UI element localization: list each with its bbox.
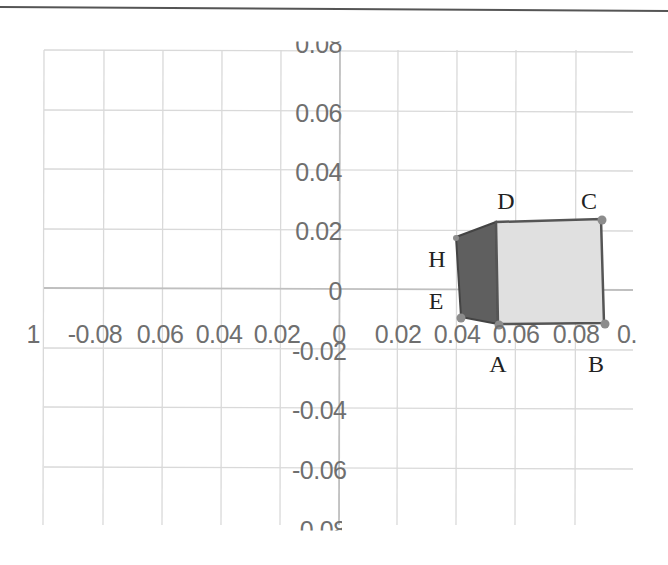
- x-tick-0.1: 0.: [617, 322, 637, 347]
- y-tick-0.02: 0.02: [292, 219, 342, 244]
- x-tick-neg-0.08: -0.08: [68, 322, 122, 347]
- x-tick-0.04: 0.04: [434, 322, 481, 347]
- vertex-label-C: C: [581, 189, 597, 213]
- vertex-label-D: D: [497, 189, 514, 213]
- x-tick-neg-0.02: 0.02: [254, 322, 301, 347]
- vertex-label-E: E: [429, 289, 444, 313]
- y-tick-0: 0: [292, 279, 342, 304]
- y-tick-neg-0.04: -0.04: [292, 398, 342, 423]
- x-tick-0.08: 0.08: [553, 322, 600, 347]
- y-tick-0.06: 0.06: [292, 101, 342, 126]
- y-tick-0.04: 0.04: [292, 160, 342, 185]
- marker-C: [598, 216, 607, 225]
- y-tick-neg-0.06: -0.06: [292, 458, 342, 483]
- x-tick-neg-0.06: 0.06: [137, 322, 184, 347]
- marker-H: [453, 235, 459, 241]
- x-tick-0.06: 0.06: [493, 322, 540, 347]
- x-tick-neg-0.04: 0.04: [196, 322, 243, 347]
- x-tick-0.02: 0.02: [375, 322, 422, 347]
- vertex-label-B: B: [588, 352, 604, 376]
- vertex-label-H: H: [428, 247, 445, 271]
- left-clip-mask: [0, 300, 28, 350]
- x-tick-0: 0: [332, 322, 345, 347]
- marker-B: [601, 320, 610, 329]
- vertex-label-A: A: [489, 352, 506, 376]
- cube-front-face: [496, 219, 604, 324]
- cube-side-face: [456, 222, 498, 324]
